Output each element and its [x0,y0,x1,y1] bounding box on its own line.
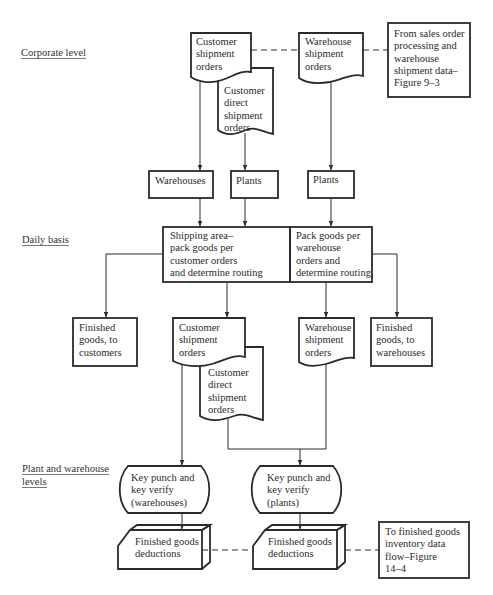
node-plants-right: Plants [313,174,339,186]
node-target-note: To finished goods inventory data flow–Fi… [385,526,460,575]
node-shipping-area: Shipping area– pack goods per customer o… [170,230,263,279]
node-finished-goods-to-customers: Finished goods, to customers [79,322,122,359]
node-deductions-plants: Finished goods deductions [268,536,332,561]
level-label-corporate: Corporate level [21,47,86,60]
node-daily-customer-direct-shipment-orders: Customer direct shipment orders [208,367,249,416]
node-daily-warehouse-shipment-orders: Warehouse shipment orders [305,322,351,359]
node-deductions-warehouses: Finished goods deductions [135,536,199,561]
node-corp-customer-direct-shipment-orders: Customer direct shipment orders [224,85,265,134]
node-plants-left: Plants [236,175,262,187]
node-source-note: From sales order processing and warehous… [394,28,465,89]
level-label-daily: Daily basis [22,234,69,247]
node-daily-customer-shipment-orders: Customer shipment orders [179,322,220,359]
node-corp-warehouse-shipment-orders: Warehouse shipment orders [305,36,351,73]
level-label-plant-warehouse: Plant and warehouse levels [22,463,109,488]
node-finished-goods-to-warehouses: Finished goods, to warehouses [376,322,425,359]
node-pack-goods: Pack goods per warehouse orders and dete… [296,230,371,279]
node-keypunch-plants: Key punch and key verify (plants) [267,472,331,509]
node-warehouses: Warehouses [155,175,205,187]
node-keypunch-warehouses: Key punch and key verify (warehouses) [131,472,195,509]
node-corp-customer-shipment-orders: Customer shipment orders [196,36,237,73]
